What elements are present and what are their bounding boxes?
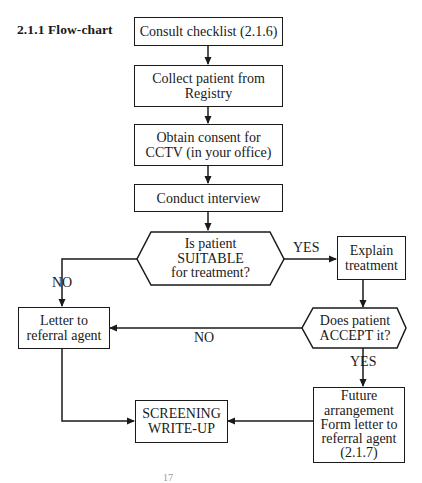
step-consult-checklist: Consult checklist (2.1.6) <box>134 17 283 46</box>
node-text: Explain <box>350 243 394 258</box>
step-future-arrangement: Future arrangement Form letter to referr… <box>313 387 405 463</box>
arrow-letter-to-screening <box>62 348 134 421</box>
node-text: Conduct interview <box>157 191 261 206</box>
node-text: arrangement <box>324 404 394 418</box>
step-screening-write-up: SCREENING WRITE-UP <box>135 400 228 443</box>
node-text: WRITE-UP <box>148 422 215 437</box>
edge-label-suitable-yes: YES <box>293 241 319 255</box>
page-number: 17 <box>163 472 173 483</box>
node-text: referral agent <box>322 432 397 446</box>
node-text: for treatment? <box>171 266 250 281</box>
edge-label-suitable-no: NO <box>52 276 72 290</box>
node-text: Form letter to <box>321 418 398 432</box>
node-text: SCREENING <box>142 407 221 422</box>
node-text: Obtain consent for <box>156 130 260 145</box>
step-conduct-interview: Conduct interview <box>134 184 283 212</box>
node-text: CCTV (in your office) <box>146 145 272 160</box>
node-text: (2.1.7) <box>340 446 377 460</box>
arrow-suitable-no <box>62 259 137 306</box>
node-text: Does patient <box>320 314 390 329</box>
node-text: referral agent <box>27 328 102 343</box>
node-text: Future <box>341 389 378 403</box>
decision-accept: Does patient ACCEPT it? <box>310 309 400 348</box>
decision-suitable: Is patient SUITABLE for treatment? <box>150 233 271 285</box>
step-explain-treatment: Explain treatment <box>337 236 406 280</box>
node-text: treatment <box>345 258 398 273</box>
node-text: ACCEPT it? <box>320 329 391 344</box>
node-text: SUITABLE <box>177 252 244 267</box>
edge-label-accept-no: NO <box>194 331 214 345</box>
node-text: Letter to <box>40 313 88 328</box>
step-obtain-consent: Obtain consent for CCTV (in your office) <box>134 124 283 166</box>
step-collect-patient: Collect patient from Registry <box>134 65 283 107</box>
node-text: Is patient <box>185 237 237 252</box>
node-text: Registry <box>185 86 232 101</box>
node-text: Consult checklist (2.1.6) <box>140 24 278 39</box>
node-text: Collect patient from <box>152 71 265 86</box>
edge-label-accept-yes: YES <box>350 355 376 369</box>
step-letter-to-referral-agent: Letter to referral agent <box>18 307 110 349</box>
